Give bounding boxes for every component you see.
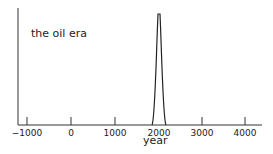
tick-label: −1000 (12, 128, 42, 138)
tick-label: 4000 (234, 128, 257, 138)
annotation: the oil era (31, 27, 87, 40)
x-axis-label: year (143, 134, 168, 147)
chart: the oil era −1000 0 1000 2000 3000 4000 … (0, 0, 273, 154)
tick-label: 0 (68, 128, 74, 138)
oil-era-peak (152, 14, 166, 125)
tick-label: 1000 (104, 128, 127, 138)
tick-label: 3000 (191, 128, 214, 138)
x-ticks (27, 117, 245, 125)
